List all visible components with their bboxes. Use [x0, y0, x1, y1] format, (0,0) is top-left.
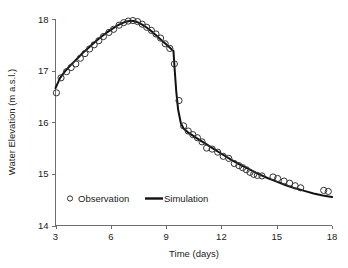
y-tick-label: 14 — [38, 220, 49, 231]
y-tick-label: 18 — [38, 14, 49, 25]
y-axis-title: Water Elevation (m a.s.l.) — [6, 69, 17, 175]
legend-simulation-label: Simulation — [164, 193, 208, 204]
y-tick-label: 15 — [38, 168, 49, 179]
chart-background — [0, 0, 348, 268]
x-tick-label: 3 — [53, 231, 58, 242]
x-tick-label: 18 — [327, 231, 338, 242]
water-elevation-line-chart: 1415161718 369121518 Observation Simulat… — [0, 0, 348, 268]
y-tick-label: 17 — [38, 65, 49, 76]
x-tick-label: 15 — [271, 231, 282, 242]
x-axis-title: Time (days) — [169, 248, 219, 259]
x-tick-label: 9 — [163, 231, 168, 242]
x-tick-label: 6 — [108, 231, 113, 242]
legend-observation-label: Observation — [78, 193, 129, 204]
y-tick-label: 16 — [38, 117, 49, 128]
chart-figure: 1415161718 369121518 Observation Simulat… — [0, 0, 348, 268]
x-tick-label: 12 — [216, 231, 227, 242]
